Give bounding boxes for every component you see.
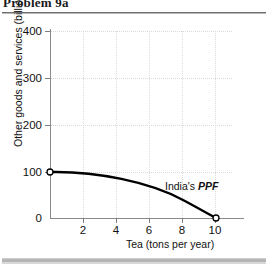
x-axis-title: Tea (tons per year) [126,238,214,250]
gridline-x-4 [116,31,117,218]
y-tick-300 [45,78,50,79]
y-tick-label-100: 100 [8,166,42,178]
x-tick-label-6: 6 [137,224,161,236]
gridline-x-2 [83,31,84,218]
y-tick-200 [45,125,50,126]
y-tick-400 [45,31,50,32]
y-axis-title: Other goods and services (billions per y… [12,0,24,147]
x-tick-2 [83,218,84,223]
x-tick-10 [215,218,216,223]
gridline-y-200 [50,125,232,126]
ppf-annotation-prefix: India's [165,180,198,192]
y-axis-line [50,29,51,219]
ppf-annotation-emphasis: PPF [198,180,218,192]
footer-divider [2,258,266,264]
gridline-y-100 [50,172,232,173]
x-tick-6 [149,218,150,223]
x-tick-8 [182,218,183,223]
gridline-y-300 [50,78,232,79]
x-tick-label-4: 4 [104,224,128,236]
ppf-annotation: India's PPF [165,180,218,192]
chart-figure: 400 300 200 100 0 2 4 6 8 10 Other goods… [0,14,268,254]
x-tick-label-2: 2 [71,224,95,236]
y-tick-label-0: 0 [8,212,42,224]
gridline-y-400 [50,31,232,32]
x-tick-label-8: 8 [170,224,194,236]
figure-panel: Problem 9a 400 300 200 [0,0,268,268]
gridline-x-6 [149,31,150,218]
x-tick-4 [116,218,117,223]
y-tick-100 [45,172,50,173]
x-tick-label-10: 10 [203,224,227,236]
